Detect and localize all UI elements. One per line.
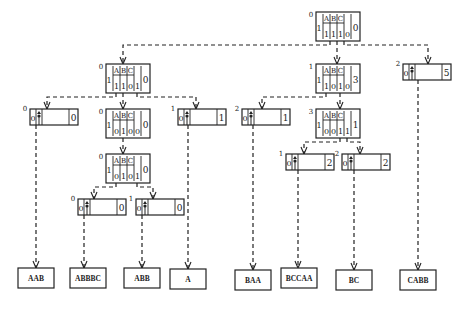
node-alphabet-header: B xyxy=(121,67,126,75)
edge-pABB-lABB xyxy=(139,215,145,268)
pointer-node-pABBBC: 000 xyxy=(71,195,126,215)
node-bit: 1 xyxy=(338,82,343,91)
edge-n2-pBAA xyxy=(259,93,326,109)
arrowhead-icon xyxy=(301,147,307,154)
node-bit: 0 xyxy=(324,127,329,136)
node-alphabet-header: A xyxy=(113,67,120,75)
arrowhead-icon xyxy=(259,102,265,109)
node-flag: 0 xyxy=(178,114,183,123)
node-count: 0 xyxy=(143,165,149,175)
node-alphabet-header: B xyxy=(331,112,336,120)
edge-p3-lCABB xyxy=(415,80,421,270)
node-alphabet-header: A xyxy=(323,67,330,75)
leaf-baa: BAA xyxy=(235,270,271,290)
node-alphabet-header: B xyxy=(121,157,126,165)
edge-pAAB-lAAB xyxy=(33,125,39,268)
edge-n5-pABB xyxy=(137,183,156,199)
pointer-node-pBCCAA: 102 xyxy=(279,150,334,170)
node-bit: 1 xyxy=(135,172,140,181)
node-count: 0 xyxy=(353,23,359,33)
trie-diagram: 01A1B1C10001A1B1C01011A1B0C10301A0B1C000… xyxy=(0,0,469,309)
node-level-label: 3 xyxy=(309,108,313,116)
node-count: 1 xyxy=(219,113,225,123)
node-flag: 1 xyxy=(106,121,111,130)
node-bit: 1 xyxy=(114,82,119,91)
leaf-string-label: BC xyxy=(349,276,359,285)
edge-n1-pAAB xyxy=(44,93,116,109)
node-level-label: 0 xyxy=(71,195,75,203)
leaf-layer: AABABBBCABBABAABCCAABCCABB xyxy=(18,268,436,290)
node-flag: 0 xyxy=(136,204,141,213)
node-count: 1 xyxy=(353,120,359,130)
node-alphabet-header: C xyxy=(338,67,343,75)
node-alphabet-header: A xyxy=(113,112,120,120)
node-bit: 0 xyxy=(128,127,133,136)
node-flag: 0 xyxy=(242,114,247,123)
edge-pBCCAA-lBCCAA xyxy=(295,170,301,268)
node-bit: 0 xyxy=(114,172,119,181)
node-bit: 1 xyxy=(121,82,126,91)
node-alphabet-header: A xyxy=(113,157,120,165)
node-alphabet-header: C xyxy=(128,157,133,165)
node-level-label: 1 xyxy=(309,63,313,71)
node-alphabet-header: C xyxy=(338,112,343,120)
trie-node-n8: 31A0B0C111 xyxy=(309,108,360,138)
edge-n5-pABBBC xyxy=(91,183,116,199)
edge-root-n1 xyxy=(120,41,330,64)
node-bit: 1 xyxy=(324,30,329,39)
node-alphabet-header: C xyxy=(338,15,343,23)
leaf-abbbc: ABBBC xyxy=(70,268,106,288)
node-count: 0 xyxy=(177,203,183,213)
trie-node-root: 01A1B1C100 xyxy=(309,11,360,41)
node-flag: 1 xyxy=(316,24,321,33)
node-flag: 1 xyxy=(316,76,321,85)
node-bit: 0 xyxy=(128,172,133,181)
node-level-label: 0 xyxy=(309,11,313,19)
node-alphabet-header: C xyxy=(128,67,133,75)
node-bit: 0 xyxy=(128,82,133,91)
node-bit: 0 xyxy=(331,82,336,91)
node-flag: 1 xyxy=(106,166,111,175)
node-bit: 1 xyxy=(135,82,140,91)
edge-n4-n5 xyxy=(120,138,126,154)
leaf-cabb: CABB xyxy=(400,270,436,290)
leaf-bc: BC xyxy=(336,270,372,290)
node-flag: 0 xyxy=(78,204,83,213)
edge-root-p3 xyxy=(344,41,431,64)
node-bit: 1 xyxy=(338,127,343,136)
node-bit: 1 xyxy=(121,172,126,181)
leaf-abb: ABB xyxy=(124,268,160,288)
edge-pBAA-lBAA xyxy=(250,125,256,270)
node-layer: 01A1B1C10001A1B1C01011A1B0C10301A0B1C000… xyxy=(23,11,451,215)
node-bit: 1 xyxy=(324,82,329,91)
node-alphabet-header: A xyxy=(323,15,330,23)
node-bit: 1 xyxy=(338,30,343,39)
edge-pA-lA xyxy=(185,125,191,269)
node-level-label: 2 xyxy=(335,150,339,158)
leaf-string-label: ABBBC xyxy=(75,274,101,283)
leaf-string-label: BAA xyxy=(245,276,261,285)
node-level-label: 0 xyxy=(99,153,103,161)
node-alphabet-header: B xyxy=(331,67,336,75)
node-alphabet-header: C xyxy=(128,112,133,120)
pointer-node-pABB: 100 xyxy=(129,195,184,215)
node-bit: 1 xyxy=(331,30,336,39)
trie-node-n2: 11A1B0C103 xyxy=(309,63,360,93)
node-level-label: 2 xyxy=(235,105,239,113)
pointer-node-pBC: 202 xyxy=(335,150,390,170)
node-flag: 1 xyxy=(106,76,111,85)
edge-pABBBC-lABBBC xyxy=(81,215,87,268)
node-bit: 0 xyxy=(331,127,336,136)
node-flag: 0 xyxy=(30,114,35,123)
node-alphabet-header: A xyxy=(323,112,330,120)
node-bit: 1 xyxy=(345,127,350,136)
node-count: 0 xyxy=(119,203,125,213)
node-level-label: 1 xyxy=(171,105,175,113)
edge-n1-pA xyxy=(137,93,199,109)
node-bit: 0 xyxy=(345,30,350,39)
node-alphabet-header: B xyxy=(121,112,126,120)
node-level-label: 1 xyxy=(129,195,133,203)
node-bit: 1 xyxy=(121,127,126,136)
edge-root-n2 xyxy=(334,41,340,64)
trie-node-n4: 01A0B1C000 xyxy=(99,108,150,138)
